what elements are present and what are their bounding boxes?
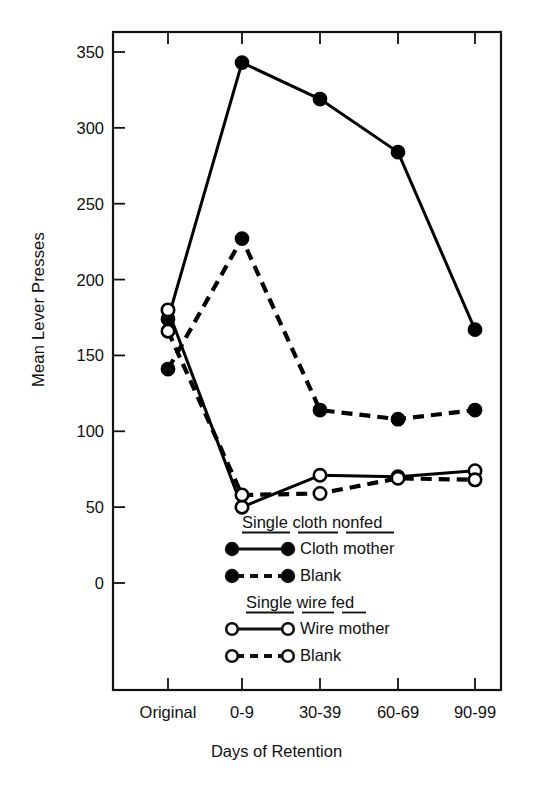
y-axis-title: Mean Lever Presses (29, 210, 48, 410)
x-axis-title: Days of Retention (0, 742, 553, 761)
legend-group-heading: Single wire fed (246, 593, 354, 611)
x-tick-label: 60-69 (377, 703, 419, 721)
data-point-marker (314, 404, 327, 417)
data-point-marker (236, 56, 249, 69)
y-tick-label: 200 (76, 271, 104, 289)
legend-group-heading: Single cloth nonfed (242, 513, 382, 531)
x-tick-label: 90-99 (454, 703, 496, 721)
data-point-marker (469, 474, 481, 486)
data-point-marker (236, 501, 248, 513)
data-point-marker (162, 325, 174, 337)
data-point-marker (314, 487, 326, 499)
legend-sample-marker (226, 623, 238, 635)
y-tick-label: 100 (76, 422, 104, 440)
data-point-marker (314, 93, 327, 106)
data-point-marker (314, 469, 326, 481)
y-tick-label: 350 (76, 43, 104, 61)
y-tick-label: 250 (76, 195, 104, 213)
legend-sample-marker (282, 543, 294, 555)
legend-sample-marker (226, 570, 238, 582)
legend-sample-marker (226, 543, 238, 555)
figure-root: 050100150200250300350 Original0-930-3960… (0, 0, 553, 792)
legend-sample-marker (226, 650, 238, 662)
page-bottom-margin (0, 775, 553, 792)
legend-sample-marker (282, 570, 294, 582)
x-tick-label: 30-39 (299, 703, 341, 721)
legend-entry-label: Blank (300, 646, 342, 664)
legend-entry-label: Wire mother (300, 619, 390, 637)
data-point-marker (392, 146, 405, 159)
y-tick-label: 50 (86, 498, 104, 516)
legend-entry-label: Blank (300, 566, 342, 584)
legend-sample-marker (282, 650, 294, 662)
y-tick-label: 0 (95, 574, 104, 592)
chart-canvas: 050100150200250300350 Original0-930-3960… (0, 0, 553, 792)
x-tick-label: Original (140, 703, 197, 721)
data-point-marker (392, 472, 404, 484)
y-tick-label: 150 (76, 346, 104, 364)
line-chart-svg: 050100150200250300350 Original0-930-3960… (0, 0, 553, 792)
data-point-marker (162, 304, 174, 316)
data-point-marker (469, 404, 482, 417)
x-tick-label: 0-9 (230, 703, 254, 721)
y-tick-label: 300 (76, 119, 104, 137)
legend-sample-marker (282, 623, 294, 635)
data-point-marker (469, 323, 482, 336)
data-point-marker (236, 232, 249, 245)
legend-entry-label: Cloth mother (300, 539, 395, 557)
data-point-marker (236, 489, 248, 501)
data-point-marker (162, 363, 175, 376)
data-point-marker (392, 413, 405, 426)
